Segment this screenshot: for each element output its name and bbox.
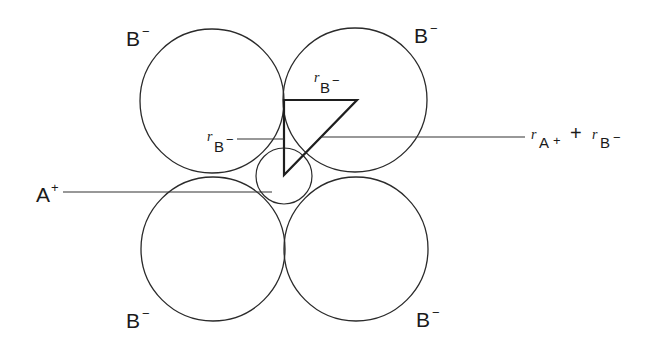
- label-hypotenuse-sum: r A + + r B −: [531, 122, 621, 151]
- svg-text:A: A: [539, 134, 549, 151]
- anion-label-bottom-right: B−: [416, 305, 440, 331]
- svg-text:−: −: [226, 132, 234, 147]
- svg-text:B: B: [320, 79, 330, 96]
- cation-label: A+: [36, 180, 59, 206]
- svg-text:B: B: [214, 138, 224, 155]
- anion-label-top-left: B−: [126, 24, 150, 50]
- svg-text:r: r: [531, 127, 537, 142]
- svg-text:r: r: [592, 127, 598, 142]
- anion-circle-bottom-left: [141, 177, 285, 321]
- svg-text:r: r: [207, 129, 213, 144]
- radius-ratio-diagram: B− B− B− B− A+ r B − r B − r A + + r B −: [0, 0, 648, 345]
- svg-text:B: B: [600, 134, 610, 151]
- svg-text:−: −: [613, 130, 621, 145]
- anion-label-bottom-left: B−: [126, 306, 150, 332]
- anion-label-top-right: B−: [414, 21, 438, 47]
- label-rB-vertical: r B −: [207, 129, 234, 155]
- svg-text:−: −: [332, 73, 340, 88]
- label-rB-horizontal: r B −: [314, 70, 340, 96]
- svg-text:+: +: [570, 122, 582, 144]
- anion-circle-bottom-right: [284, 177, 428, 321]
- svg-text:+: +: [553, 133, 561, 148]
- anion-circle-top-left: [140, 29, 284, 173]
